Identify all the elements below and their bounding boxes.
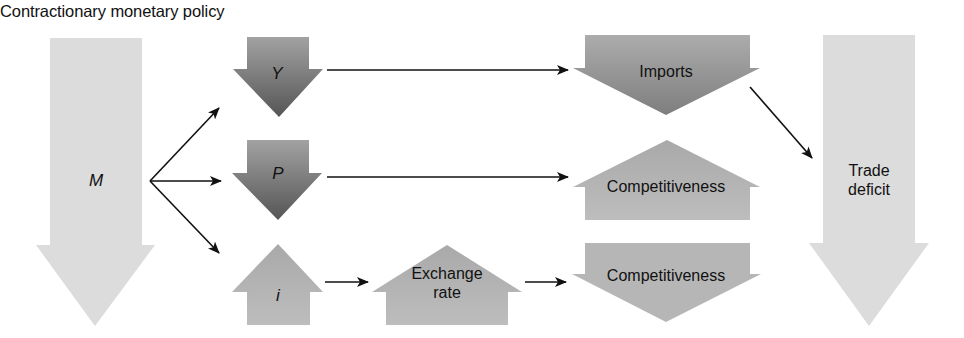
exchange-rate-label-line2: rate xyxy=(411,283,482,302)
m-label: M xyxy=(89,171,103,191)
trade-deficit-label: Trade deficit xyxy=(848,161,890,199)
trade-deficit-label-line2: deficit xyxy=(848,180,890,199)
y-label: Y xyxy=(271,64,282,84)
competitiveness-down-label: Competitiveness xyxy=(607,266,725,286)
imports-label: Imports xyxy=(639,62,692,82)
i-label: i xyxy=(276,286,280,306)
edge-imports-to-trade-deficit xyxy=(750,87,812,158)
monetary-policy-diagram: Contractionary monetary policy M Y P i E… xyxy=(0,0,964,338)
i-arrow-up xyxy=(232,244,323,325)
competitiveness-up-label: Competitiveness xyxy=(607,177,725,197)
trade-deficit-label-line1: Trade xyxy=(848,161,890,180)
edge-m-to-i xyxy=(150,181,219,253)
p-label: P xyxy=(272,164,283,184)
exchange-rate-label-line1: Exchange xyxy=(411,264,482,283)
diagram-title: Contractionary monetary policy xyxy=(0,2,224,21)
exchange-rate-label: Exchange rate xyxy=(411,264,482,302)
edge-m-to-y xyxy=(150,108,219,181)
